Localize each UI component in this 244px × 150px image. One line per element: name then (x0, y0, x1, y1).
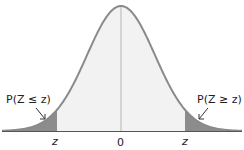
bell-curve-graphic (0, 0, 244, 150)
right-arrow-icon (199, 108, 208, 119)
normal-distribution-diagram: P(Z ≤ z) P(Z ≥ z) z 0 z (0, 0, 244, 150)
right-z-label: z (182, 136, 188, 147)
curve-body-area (2, 6, 242, 131)
zero-label: 0 (117, 137, 124, 148)
left-z-label: z (52, 136, 58, 147)
left-arrow-icon (36, 108, 45, 119)
right-tail-label: P(Z ≥ z) (197, 94, 242, 105)
left-tail-label: P(Z ≤ z) (6, 94, 51, 105)
